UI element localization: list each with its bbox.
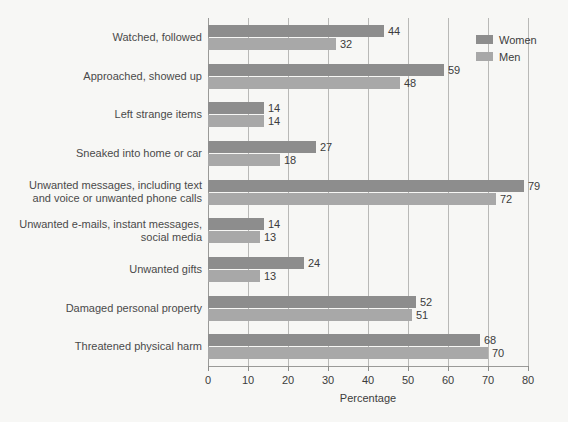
category-label: Left strange items (2, 108, 202, 121)
bar-men (208, 193, 496, 205)
bar-women (208, 334, 480, 346)
bar-men (208, 231, 260, 243)
chart-legend: Women Men (476, 31, 537, 65)
bar-value-label: 70 (492, 347, 504, 359)
bar-chart: Watched, followedApproached, showed upLe… (0, 0, 568, 422)
category-label: Unwanted e-mails, instant messages,socia… (2, 218, 202, 244)
bar-women (208, 25, 384, 37)
category-label-line: Sneaked into home or car (2, 147, 202, 160)
bar-value-label: 14 (268, 218, 280, 230)
legend-swatch-women-icon (476, 35, 493, 44)
bar-group: 7972 (208, 180, 528, 205)
bar-value-label: 24 (308, 257, 320, 269)
bar-value-label: 51 (416, 309, 428, 321)
x-tick-label-40: 40 (362, 374, 374, 386)
bar-value-label: 48 (404, 77, 416, 89)
category-label: Unwanted messages, including textand voi… (2, 179, 202, 205)
bar-group: 6870 (208, 334, 528, 359)
x-tick-mark-30 (328, 366, 329, 371)
legend-item-women: Women (476, 31, 537, 48)
category-label-line: Unwanted messages, including text (2, 179, 202, 192)
x-tick-label-50: 50 (402, 374, 414, 386)
category-label: Damaged personal property (2, 302, 202, 315)
x-tick-label-10: 10 (242, 374, 254, 386)
x-tick-mark-0 (208, 366, 209, 371)
bar-group: 2413 (208, 257, 528, 282)
category-label-line: Damaged personal property (2, 302, 202, 315)
category-label-line: and voice or unwanted phone calls (2, 192, 202, 205)
bar-value-label: 14 (268, 102, 280, 114)
category-label-line: Unwanted e-mails, instant messages, (2, 218, 202, 231)
bar-value-label: 59 (448, 64, 460, 76)
bar-women (208, 102, 264, 114)
bar-value-label: 18 (284, 154, 296, 166)
bar-men (208, 270, 260, 282)
category-label-line: Threatened physical harm (2, 340, 202, 353)
x-tick-label-60: 60 (442, 374, 454, 386)
legend-item-men: Men (476, 48, 537, 65)
bar-value-label: 13 (264, 270, 276, 282)
bar-women (208, 180, 524, 192)
x-tick-mark-40 (368, 366, 369, 371)
bar-women (208, 218, 264, 230)
x-tick-label-70: 70 (482, 374, 494, 386)
bar-value-label: 72 (500, 193, 512, 205)
bar-group: 1413 (208, 218, 528, 243)
category-label-line: Watched, followed (2, 31, 202, 44)
legend-swatch-men-icon (476, 52, 493, 61)
bar-men (208, 77, 400, 89)
bar-women (208, 141, 316, 153)
x-tick-mark-60 (448, 366, 449, 371)
plot-area: 443259481414271879721413241352516870 (208, 18, 528, 366)
category-label-line: Unwanted gifts (2, 263, 202, 276)
bar-value-label: 14 (268, 115, 280, 127)
bar-value-label: 13 (264, 231, 276, 243)
category-label: Watched, followed (2, 31, 202, 44)
x-tick-mark-10 (248, 366, 249, 371)
x-tick-label-30: 30 (322, 374, 334, 386)
bar-group: 2718 (208, 141, 528, 166)
category-label: Sneaked into home or car (2, 147, 202, 160)
legend-label-women: Women (499, 34, 537, 46)
bar-men (208, 115, 264, 127)
x-tick-mark-80 (528, 366, 529, 371)
bar-men (208, 38, 336, 50)
bar-men (208, 347, 488, 359)
category-label-line: Approached, showed up (2, 70, 202, 83)
category-label: Approached, showed up (2, 70, 202, 83)
category-label: Threatened physical harm (2, 340, 202, 353)
x-tick-label-0: 0 (205, 374, 211, 386)
x-tick-mark-20 (288, 366, 289, 371)
bar-men (208, 309, 412, 321)
bar-value-label: 44 (388, 25, 400, 37)
bar-value-label: 27 (320, 141, 332, 153)
bar-women (208, 257, 304, 269)
bar-men (208, 154, 280, 166)
bar-value-label: 52 (420, 296, 432, 308)
bar-group: 1414 (208, 102, 528, 127)
legend-label-men: Men (499, 51, 520, 63)
x-tick-label-20: 20 (282, 374, 294, 386)
bar-value-label: 32 (340, 38, 352, 50)
x-tick-mark-50 (408, 366, 409, 371)
category-axis-labels: Watched, followedApproached, showed upLe… (0, 18, 202, 366)
category-label-line: Left strange items (2, 108, 202, 121)
x-tick-mark-70 (488, 366, 489, 371)
bar-women (208, 64, 444, 76)
category-label-line: social media (2, 231, 202, 244)
bar-women (208, 296, 416, 308)
bar-group: 5948 (208, 64, 528, 89)
gridline-80 (528, 18, 529, 366)
x-tick-label-80: 80 (522, 374, 534, 386)
category-label: Unwanted gifts (2, 263, 202, 276)
bar-value-label: 79 (528, 180, 540, 192)
bar-value-label: 68 (484, 334, 496, 346)
x-axis-title: Percentage (208, 392, 528, 404)
bar-group: 5251 (208, 296, 528, 321)
